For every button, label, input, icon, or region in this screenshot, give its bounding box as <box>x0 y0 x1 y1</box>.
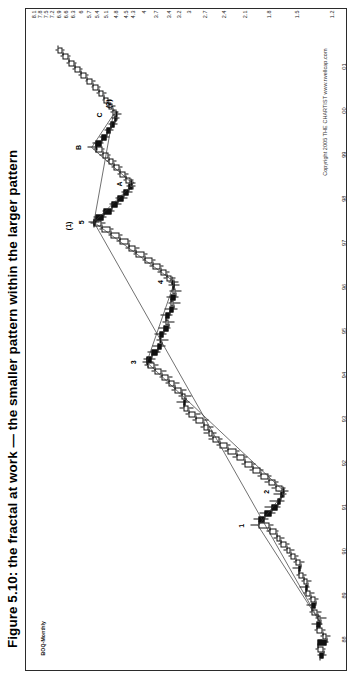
ohlc-open-tick <box>112 109 113 111</box>
ohlc-bar-body <box>95 140 101 146</box>
ohlc-open-tick <box>125 176 126 178</box>
ohlc-bar-body <box>106 127 110 133</box>
chart-plate: 12345(1)ABC(2) 8.17.87.57.26.96.66.365.7… <box>25 8 347 671</box>
ohlc-open-tick <box>258 522 259 524</box>
ohlc-bar-body <box>117 195 123 201</box>
ohlc-bar-body <box>110 121 114 127</box>
ohlc-bar-series <box>25 8 347 671</box>
ohlc-bar-body <box>316 621 320 627</box>
price-axis: 8.17.87.57.26.96.66.365.75.45.14.84.54.3… <box>25 8 347 42</box>
ohlc-open-tick <box>311 608 312 610</box>
ohlc-open-tick <box>168 324 169 326</box>
ohlc-open-tick <box>310 596 311 598</box>
ohlc-bar-body <box>311 602 314 608</box>
ohlc-open-tick <box>114 121 115 123</box>
ohlc-bar-body <box>258 522 269 528</box>
ohlc-open-tick <box>163 331 164 333</box>
ohlc-open-tick <box>93 225 94 227</box>
ohlc-open-tick <box>203 423 204 425</box>
ohlc-open-tick <box>298 571 299 573</box>
ohlc-open-tick <box>159 337 160 339</box>
price-tick: 1.5 <box>293 10 299 40</box>
ohlc-open-tick <box>280 497 281 499</box>
price-tick: 6.9 <box>55 10 61 40</box>
price-tick: 8.1 <box>30 10 36 40</box>
ohlc-open-tick <box>103 213 104 215</box>
price-tick: 2.1 <box>241 10 247 40</box>
price-tick: 2.7 <box>201 10 207 40</box>
ohlc-open-tick <box>276 534 277 536</box>
ohlc-bar <box>156 339 168 340</box>
date-tick: 88 <box>340 636 346 642</box>
ohlc-open-tick <box>183 405 184 407</box>
ohlc-bar-body <box>277 498 281 504</box>
ohlc-open-tick <box>161 343 162 345</box>
ohlc-open-tick <box>252 466 253 468</box>
ohlc-open-tick <box>123 195 124 197</box>
ohlc-open-tick <box>174 386 175 388</box>
price-tick: 2.4 <box>220 10 226 40</box>
price-tick: 6.6 <box>62 10 68 40</box>
ohlc-open-tick <box>173 284 174 286</box>
ohlc-bar <box>162 321 174 322</box>
ohlc-open-tick <box>307 584 308 586</box>
ohlc-open-tick <box>212 436 213 438</box>
ohlc-bar-body <box>111 201 117 207</box>
date-tick: 90 <box>340 548 346 554</box>
ohlc-open-tick <box>115 115 116 117</box>
price-tick: 4.5 <box>122 10 128 40</box>
ohlc-open-tick <box>92 84 93 86</box>
ohlc-open-tick <box>160 269 161 271</box>
ohlc-open-tick <box>269 528 270 530</box>
date-axis: 8889909192939495969798990001 <box>333 8 347 671</box>
date-tick: 97 <box>340 239 346 245</box>
price-tick: 5.1 <box>102 10 108 40</box>
ohlc-open-tick <box>108 158 109 160</box>
ohlc-open-tick <box>280 540 281 542</box>
ohlc-open-tick <box>95 220 96 222</box>
ohlc-open-tick <box>154 368 155 370</box>
ohlc-open-tick <box>323 651 324 653</box>
ohlc-bar-body <box>123 189 128 195</box>
ohlc-open-tick <box>305 590 306 592</box>
ohlc-bar-body <box>163 325 167 331</box>
price-tick: 4 <box>140 10 146 40</box>
ohlc-open-tick <box>175 294 176 296</box>
ohlc-open-tick <box>317 645 318 647</box>
ohlc-open-tick <box>144 257 145 259</box>
date-tick: 01 <box>340 63 346 69</box>
ohlc-open-tick <box>320 621 321 623</box>
ohlc-open-tick <box>219 442 220 444</box>
date-tick: 94 <box>340 371 346 377</box>
price-tick: 3.7 <box>152 10 158 40</box>
ohlc-open-tick <box>290 553 291 555</box>
ohlc-open-tick <box>236 454 237 456</box>
ohlc-open-tick <box>110 232 111 234</box>
price-tick: 7.5 <box>42 10 48 40</box>
ohlc-open-tick <box>244 460 245 462</box>
ohlc-open-tick <box>300 565 301 567</box>
ohlc-bar-body <box>103 208 110 214</box>
copyright-notice: Copyright 2005 THE CHARTIST www.rwellcap… <box>321 48 327 175</box>
ohlc-open-tick <box>326 639 327 641</box>
date-tick: 93 <box>340 415 346 421</box>
ohlc-open-tick <box>119 170 120 172</box>
ohlc-open-tick <box>119 238 120 240</box>
date-tick: 96 <box>340 283 346 289</box>
ohlc-open-tick <box>295 559 296 561</box>
ohlc-open-tick <box>195 417 196 419</box>
ohlc-bar-body <box>165 312 170 318</box>
chart-canvas: 12345(1)ABC(2) 8.17.87.57.26.96.66.365.7… <box>25 8 347 671</box>
ohlc-bar-body <box>264 510 271 516</box>
price-tick: 3.4 <box>165 10 171 40</box>
ohlc-bar-body <box>271 504 276 510</box>
ohlc-open-tick <box>171 281 172 283</box>
ohlc-bar-body <box>319 652 324 658</box>
date-tick: 00 <box>340 107 346 113</box>
ohlc-open-tick <box>168 380 169 382</box>
ohlc-bar-body <box>151 350 157 356</box>
ohlc-open-tick <box>188 411 189 413</box>
ohlc-bar-body <box>57 47 62 53</box>
ohlc-open-tick <box>283 494 284 496</box>
date-tick: 91 <box>340 504 346 510</box>
